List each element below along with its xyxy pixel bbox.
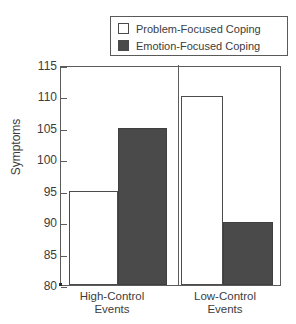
bar-low-control-emotion-focused [223, 222, 273, 285]
y-tick-105: 105 [61, 130, 67, 131]
group-divider [178, 65, 179, 285]
y-tick-115: 115 [61, 67, 67, 68]
plot-inner: 115 110 105 100 95 90 85 80 [61, 67, 280, 285]
y-tick-label-110: 110 [38, 91, 57, 104]
x-group-label-high-control: High-Control Events [57, 290, 167, 316]
x-group-label-low-control-line1: Low-Control [170, 290, 280, 303]
y-tick-label-80: 80 [44, 280, 57, 293]
y-tick-95: 95 [61, 193, 67, 194]
legend-swatch-dark-icon [118, 40, 129, 51]
x-group-label-high-control-line1: High-Control [57, 290, 167, 303]
legend-label-problem-focused: Problem-Focused Coping [136, 23, 261, 35]
chart-legend: Problem-Focused Coping Emotion-Focused C… [110, 16, 288, 56]
y-tick-label-100: 100 [37, 154, 57, 167]
y-tick-85: 85 [61, 256, 67, 257]
y-tick-110: 110 [61, 98, 67, 99]
y-axis-title: Symptoms [9, 107, 23, 187]
x-group-label-high-control-line2: Events [57, 303, 167, 316]
baseline-origin-marker [59, 283, 62, 286]
y-tick-label-85: 85 [44, 249, 57, 262]
bar-high-control-emotion-focused [118, 128, 167, 285]
legend-entry-emotion-focused: Emotion-Focused Coping [118, 37, 281, 54]
y-tick-100: 100 [61, 161, 67, 162]
y-tick-label-105: 105 [37, 123, 57, 136]
y-tick-label-95: 95 [44, 186, 57, 199]
x-group-label-low-control-line2: Events [170, 303, 280, 316]
bar-high-control-problem-focused [69, 191, 118, 285]
bar-low-control-problem-focused [181, 96, 223, 285]
y-tick-label-90: 90 [44, 217, 57, 230]
y-tick-90: 90 [61, 224, 67, 225]
legend-entry-problem-focused: Problem-Focused Coping [118, 20, 281, 37]
y-tick-label-115: 115 [38, 60, 57, 73]
bar-chart-figure: Problem-Focused Coping Emotion-Focused C… [0, 0, 296, 324]
x-group-label-low-control: Low-Control Events [170, 290, 280, 316]
plot-area: 115 110 105 100 95 90 85 80 [60, 66, 281, 286]
legend-swatch-white-icon [118, 23, 129, 34]
y-tick-80: 80 [61, 287, 67, 288]
legend-label-emotion-focused: Emotion-Focused Coping [136, 40, 260, 52]
